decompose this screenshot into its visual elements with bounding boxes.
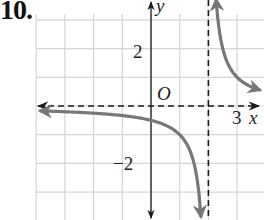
curves [41,0,260,216]
origin-label: O [157,83,171,104]
right-branch-curve [216,0,259,90]
axes [38,2,259,218]
rational-function-graph: y O x 3 2 −2 [0,0,264,220]
y-axis-label: y [154,0,165,16]
x-tick-label-3: 3 [232,107,242,128]
x-axis-label: x [248,107,258,128]
axis-labels: y O x 3 2 −2 [113,0,258,174]
y-tick-label-neg2: −2 [113,153,133,174]
grid-lines [36,14,264,220]
y-tick-label-2: 2 [133,41,143,62]
